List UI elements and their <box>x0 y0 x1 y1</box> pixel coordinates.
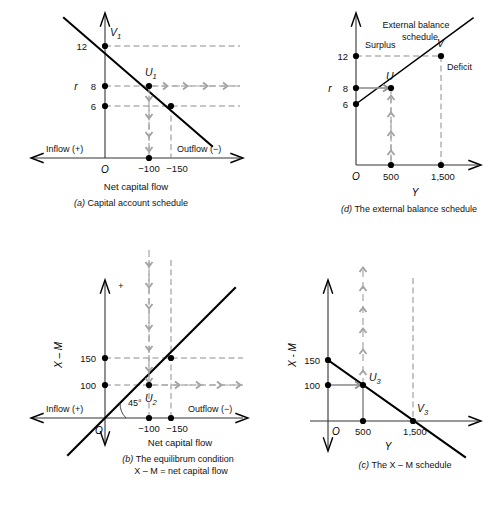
panel-c-caption: (c) The X – M schedule <box>359 460 452 470</box>
panel-d-ytick-6: 6 <box>343 99 348 110</box>
panel-d-y-axis-label: r <box>328 83 332 94</box>
panel-a-point-axis-8 <box>102 83 108 89</box>
panel-a-origin-label: O <box>101 164 109 175</box>
panel-a-xtick-minus100: −100 <box>138 163 159 174</box>
panel-a-guides <box>105 46 240 158</box>
panel-d-deficit-label: Deficit <box>447 62 473 72</box>
panel-a-y-axis-label: r <box>74 81 78 92</box>
panel-a-ytick-12: 12 <box>76 41 87 52</box>
panel-a-capital-account-schedule: 12 8 6 r −100 −150 O V1 U1 Inflow (+) Ou… <box>31 13 243 208</box>
panel-b-y-axis-label: X – M <box>53 341 64 369</box>
panel-c-flow-arrow-horizontal <box>329 382 361 389</box>
panel-b-xtick-minus150: −150 <box>166 423 187 434</box>
panel-b-inflow-note: Inflow (+) <box>46 404 83 414</box>
panel-a-label-u1: U1 <box>145 66 157 81</box>
panel-a-x-axis-label: Net capital flow <box>104 181 169 192</box>
panel-d-surplus-label: Surplus <box>365 40 396 50</box>
panel-b-caption: (b) The equilibrum condition <box>122 454 233 464</box>
panel-b-point-x-150 <box>168 415 174 421</box>
panel-b-plus-sign: + <box>118 280 124 291</box>
panel-a-ytick-8: 8 <box>91 81 96 92</box>
panel-a-caption: (a) Capital account schedule <box>74 198 188 208</box>
panel-b-label-u2: U2 <box>145 392 158 407</box>
panel-a-point-150-6 <box>168 103 174 109</box>
panel-b-point-axis-150 <box>102 355 108 361</box>
panel-a-point-axis-6 <box>102 103 108 109</box>
panel-b-point-150-150 <box>168 355 174 361</box>
panel-b-outflow-note: Outflow (−) <box>188 404 232 414</box>
panel-d-point-axis-12 <box>353 53 359 59</box>
panel-c-point-x-500 <box>360 418 366 424</box>
panel-b-point-u2 <box>146 382 152 388</box>
economics-four-panel-figure: 12 8 6 r −100 −150 O V1 U1 Inflow (+) Ou… <box>0 0 500 509</box>
panel-c-point-v3 <box>410 418 416 424</box>
panel-d-ytick-8: 8 <box>343 83 348 94</box>
panel-d-caption: (d) The external balance schedule <box>341 204 477 214</box>
panel-b-angle-arc <box>120 403 126 418</box>
panel-d-point-v <box>438 53 444 59</box>
panel-d-flow-arrows <box>357 85 395 164</box>
panel-d-ytick-12: 12 <box>337 51 348 62</box>
panel-b-angle-label: 45° <box>128 398 142 408</box>
panel-c-xtick-500: 500 <box>355 426 371 437</box>
panel-c-label-u3: U3 <box>369 371 382 386</box>
panel-c-x-minus-m-schedule: 150 100 X - M 500 1,500 O Y U3 V3 (c) Th… <box>287 266 481 470</box>
panel-b-xtick-minus100: −100 <box>138 423 159 434</box>
panel-d-xtick-1500: 1,500 <box>431 171 455 182</box>
panel-a-capital-account-curve <box>64 18 212 146</box>
panel-a-point-x-100 <box>146 155 152 161</box>
panel-c-flow-chevron-2 <box>360 350 367 355</box>
panel-c-point-axis-150 <box>325 357 331 363</box>
panel-d-point-u <box>388 85 394 91</box>
panel-c-flow-arrows-vertical <box>360 266 367 385</box>
panel-d-external-balance-schedule: 12 8 6 r 500 1,500 O Y External balance … <box>328 13 481 214</box>
panel-a-axes <box>31 13 243 163</box>
panel-b-origin-label: O <box>95 425 103 436</box>
panel-d-x-axis-label: Y <box>412 187 420 198</box>
panel-c-ytick-100: 100 <box>304 380 320 391</box>
panel-d-point-x-500 <box>388 162 394 168</box>
panel-d-schedule-label-line2: schedule <box>402 32 438 42</box>
panel-d-external-balance-curve <box>356 18 473 104</box>
panel-d-label-v: V <box>437 37 445 49</box>
panel-c-point-u3 <box>360 382 366 388</box>
panel-b-point-axis-100 <box>102 382 108 388</box>
panel-c-ytick-150: 150 <box>304 355 320 366</box>
panel-a-xtick-minus150: −150 <box>166 163 187 174</box>
panel-c-y-axis-label: X - M <box>287 342 298 368</box>
panel-b-guides <box>105 260 243 418</box>
panel-b-caption-line2: X – M = net capital flow <box>134 466 228 476</box>
panel-c-origin-label: O <box>332 426 340 437</box>
panel-a-ytick-6: 6 <box>91 101 96 112</box>
panel-d-xtick-500: 500 <box>383 171 399 182</box>
panel-a-outflow-note: Outflow (−) <box>177 144 221 154</box>
panel-d-point-axis-6 <box>353 101 359 107</box>
panel-d-label-u: U <box>386 70 394 82</box>
panel-b-ytick-150: 150 <box>80 353 96 364</box>
panel-d-origin-label: O <box>352 171 360 182</box>
panel-c-x-minus-m-curve <box>328 360 465 457</box>
panel-b-point-x-100 <box>146 415 152 421</box>
panel-d-point-axis-8 <box>353 85 359 91</box>
panel-a-point-v1 <box>102 43 108 49</box>
panel-c-label-v3: V3 <box>417 402 429 417</box>
panel-b-x-axis-label: Net capital flow <box>148 437 213 448</box>
panel-c-xtick-1500: 1,500 <box>403 426 427 437</box>
panel-c-point-axis-100 <box>325 382 331 388</box>
panel-d-schedule-label-line1: External balance <box>382 20 449 30</box>
panel-b-ytick-100: 100 <box>80 380 96 391</box>
panel-b-equilibrium-condition: 150 100 X – M + −100 −150 O U2 Inflow (+… <box>31 250 248 476</box>
panel-a-point-u1 <box>146 83 152 89</box>
panel-a-inflow-note: Inflow (+) <box>46 144 83 154</box>
panel-d-point-x-1500 <box>438 162 444 168</box>
panel-a-label-v1: V1 <box>110 26 121 41</box>
panel-c-x-axis-label: Y <box>385 441 393 452</box>
panel-d-flow-chevron-1 <box>388 151 395 156</box>
